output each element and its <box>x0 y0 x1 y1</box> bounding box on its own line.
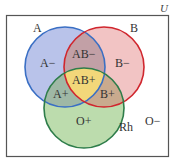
region-b-rh-label: B+ <box>100 87 115 101</box>
set-b-label: B <box>130 21 138 35</box>
set-a-label: A <box>33 21 42 35</box>
region-a-only-label: A− <box>40 56 56 70</box>
region-rh-only-label: O+ <box>76 114 92 128</box>
region-ab-rh-label: AB+ <box>72 73 96 87</box>
region-ab-only-label: AB− <box>72 47 96 61</box>
venn-diagram: U A B Rh A− B− AB− AB+ A+ B+ O+ O− <box>0 0 176 158</box>
universe-label: U <box>160 2 169 14</box>
region-outside-label: O− <box>145 114 161 128</box>
region-b-only-label: B− <box>115 56 130 70</box>
set-rh-label: Rh <box>119 120 133 134</box>
region-a-rh-label: A+ <box>53 87 69 101</box>
